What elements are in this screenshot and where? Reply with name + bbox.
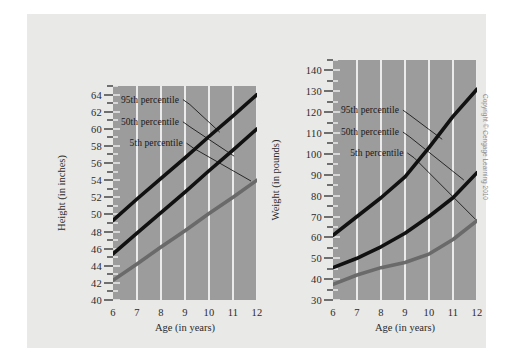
- weight-x-axis-title: Age (in years): [375, 322, 435, 333]
- weight-y-axis-title: Weight (in pounds): [270, 140, 281, 221]
- x-tick-label: 10: [424, 307, 435, 318]
- y-tick-minor: [327, 80, 333, 82]
- y-tick-label: 110: [306, 128, 322, 139]
- y-tick-minor: [327, 205, 333, 207]
- y-tick-major: [324, 236, 333, 238]
- y-tick-minor: [327, 226, 333, 228]
- y-tick-label: 40: [311, 274, 322, 285]
- y-tick-label: 30: [311, 295, 322, 306]
- y-tick-minor: [327, 142, 333, 144]
- y-tick-minor: [327, 122, 333, 124]
- y-tick-major: [324, 111, 333, 113]
- y-tick-minor: [327, 59, 333, 61]
- y-tick-label: 100: [306, 148, 322, 159]
- y-tick-label: 50: [311, 253, 322, 264]
- y-tick-label: 130: [306, 86, 322, 97]
- y-tick-label: 120: [306, 107, 322, 118]
- y-tick-label: 60: [311, 232, 322, 243]
- weight-plot-area: 95th percentile50th percentile5th percen…: [333, 60, 477, 300]
- y-tick-minor: [327, 247, 333, 249]
- x-tick-label: 9: [402, 307, 407, 318]
- y-tick-major: [324, 90, 333, 92]
- figure-card: 95th percentile50th percentile5th percen…: [27, 14, 486, 348]
- y-tick-label: 140: [306, 65, 322, 76]
- y-tick-major: [324, 153, 333, 155]
- y-tick-major: [324, 174, 333, 176]
- y-tick-minor: [327, 184, 333, 186]
- y-tick-major: [324, 195, 333, 197]
- y-tick-label: 80: [311, 190, 322, 201]
- y-tick-label: 90: [311, 169, 322, 180]
- y-tick-minor: [327, 101, 333, 103]
- series-line: [333, 89, 477, 235]
- x-tick-label: 8: [378, 307, 383, 318]
- y-tick-major: [324, 257, 333, 259]
- series-line: [333, 221, 477, 285]
- y-tick-major: [324, 216, 333, 218]
- series-lines: [333, 60, 477, 300]
- x-tick-label: 11: [448, 307, 459, 318]
- y-tick-label: 70: [311, 211, 322, 222]
- x-tick-label: 6: [330, 307, 335, 318]
- y-tick-major: [324, 69, 333, 71]
- y-tick-major: [324, 132, 333, 134]
- y-tick-major: [324, 299, 333, 301]
- y-tick-major: [324, 278, 333, 280]
- y-tick-minor: [327, 268, 333, 270]
- y-tick-minor: [327, 163, 333, 165]
- weight-chart: 95th percentile50th percentile5th percen…: [27, 14, 486, 348]
- weight-plot-frame: 95th percentile50th percentile5th percen…: [333, 60, 477, 300]
- y-tick-minor: [327, 289, 333, 291]
- x-tick-label: 12: [472, 307, 483, 318]
- x-tick-label: 7: [354, 307, 359, 318]
- copyright-notice: Copyright © Cengage Learning 2010: [482, 94, 489, 200]
